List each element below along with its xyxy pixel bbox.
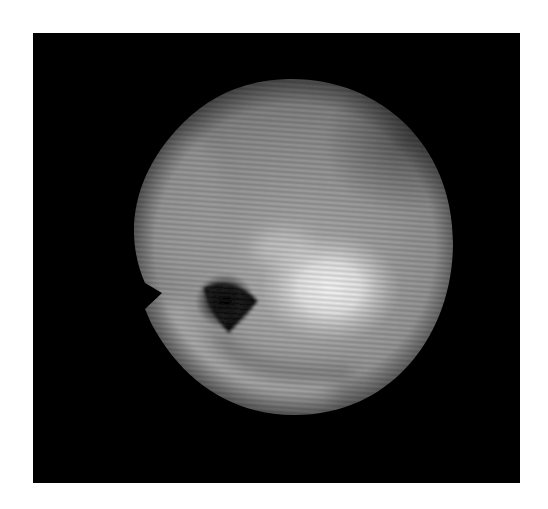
disc [33,33,520,483]
disc-image [33,33,520,483]
image-frame [33,33,520,483]
